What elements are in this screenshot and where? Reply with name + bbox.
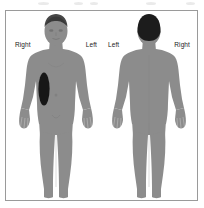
scan-artifact xyxy=(186,2,195,5)
right-foot-shape-back xyxy=(152,192,161,198)
eye-left-icon xyxy=(59,29,63,31)
scan-artifact xyxy=(38,2,49,5)
posterior-view-panel: Left Right xyxy=(101,11,197,200)
hair-back-shape xyxy=(137,14,160,41)
anterior-view-panel: Right Left xyxy=(8,11,104,200)
posterior-body-group xyxy=(112,14,186,198)
lesion-marking xyxy=(38,73,49,106)
anterior-body-svg xyxy=(8,11,104,202)
scan-artifact-strip xyxy=(0,0,204,8)
left-leg-shape xyxy=(57,131,72,194)
torso-shape xyxy=(21,49,91,124)
scan-artifact xyxy=(74,2,83,5)
scan-artifact xyxy=(146,2,156,5)
left-foot-shape-back xyxy=(137,192,146,198)
body-chart-diagram: Right Left xyxy=(0,0,204,208)
scan-artifact xyxy=(90,2,98,5)
left-foot-shape xyxy=(59,192,68,198)
right-foot-shape xyxy=(44,192,53,198)
left-leg-shape-back xyxy=(133,131,148,194)
navel-mark xyxy=(55,93,58,96)
posterior-body-svg xyxy=(101,11,197,202)
chart-frame: Right Left xyxy=(5,10,198,201)
right-leg-shape xyxy=(40,131,55,194)
eye-right-icon xyxy=(49,29,53,31)
right-leg-shape-back xyxy=(150,131,165,194)
anterior-body-group xyxy=(19,14,93,198)
